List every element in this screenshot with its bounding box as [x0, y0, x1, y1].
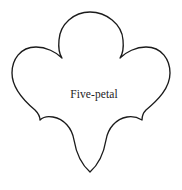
figure-canvas: Five-petal — [0, 0, 182, 190]
shape-label: Five-petal — [0, 88, 182, 101]
